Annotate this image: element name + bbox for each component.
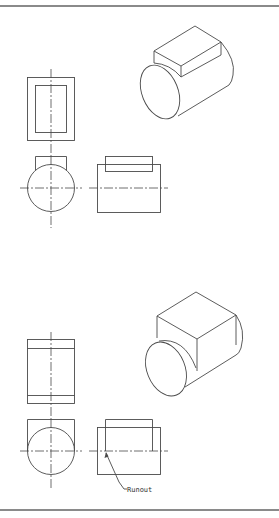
top-example-side-view	[89, 157, 168, 213]
bottom-border-rule	[0, 509, 279, 511]
runout-label: Runout	[127, 486, 152, 494]
technical-drawing: Runout	[0, 0, 279, 518]
bottom-example-side-view	[89, 420, 168, 475]
top-example-top-view	[28, 69, 75, 156]
bottom-example-front-view	[20, 419, 82, 490]
runout-annotation: Runout	[105, 452, 153, 494]
bottom-example-top-view	[28, 332, 75, 419]
example-top	[20, 26, 234, 228]
bottom-example-isometric-view	[138, 292, 243, 402]
example-bottom: Runout	[20, 292, 243, 494]
top-example-front-view	[20, 156, 82, 228]
top-example-isometric-view	[133, 26, 234, 125]
